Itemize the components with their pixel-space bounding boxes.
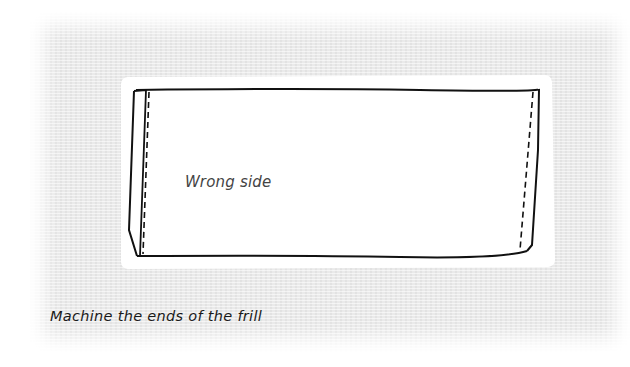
wrong-side-label: Wrong side (185, 173, 271, 191)
figure-caption: Machine the ends of the frill (50, 308, 262, 324)
